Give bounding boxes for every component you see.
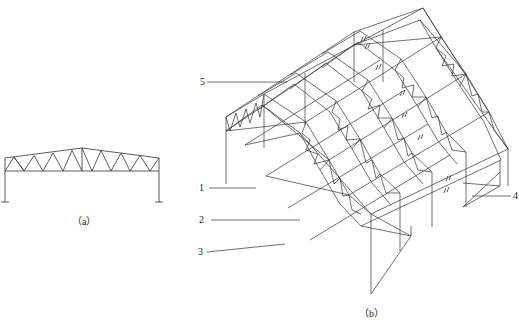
- panel-b-3d-truss-structure: [0, 0, 519, 323]
- callout-label-1: 1: [199, 183, 204, 193]
- callout-3-leader: [207, 244, 285, 252]
- callout-label-2: 2: [199, 215, 204, 225]
- callout-label-5: 5: [200, 77, 205, 87]
- callout-label-4: 4: [513, 191, 518, 201]
- caption-panel-a: （a）: [72, 217, 96, 227]
- callout-label-3: 3: [198, 247, 203, 257]
- caption-panel-b: （b）: [359, 309, 384, 319]
- structural-figure: 1 2 3 4 5 （a） （b）: [0, 0, 519, 323]
